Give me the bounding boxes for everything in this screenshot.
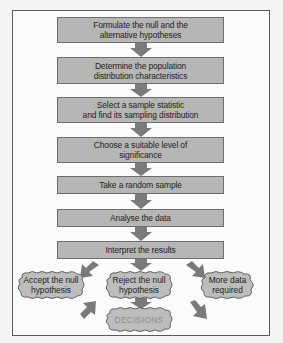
step-sample-statistic: Select a sample statisticand find its sa… xyxy=(57,97,224,123)
down-arrow-icon xyxy=(130,123,152,137)
down-arrow-icon xyxy=(130,84,152,97)
diagonal-arrow-to-decisions-icon xyxy=(188,300,208,319)
step-random-sample: Take a random sample xyxy=(57,176,224,194)
step-formulate-hypotheses: Formulate the null and thealternative hy… xyxy=(57,17,224,43)
step-text: significance xyxy=(94,150,187,160)
step-text: Analyse the data xyxy=(110,213,171,223)
down-arrow-icon xyxy=(130,194,152,209)
step-text: distribution characteristics xyxy=(94,71,188,81)
step-text: Select a sample statistic xyxy=(83,100,199,110)
outcome-accept-null: Accept the nullhypothesis xyxy=(16,270,86,300)
outcome-text: More data xyxy=(209,275,247,285)
outcome-text: hypothesis xyxy=(24,285,79,295)
step-analyse-data: Analyse the data xyxy=(57,209,224,227)
step-text: Formulate the null and the xyxy=(93,20,188,30)
down-arrow-icon xyxy=(130,227,152,241)
diagonal-arrow-to-decisions-icon xyxy=(78,300,98,319)
step-population-distribution: Determine the populationdistribution cha… xyxy=(57,57,224,84)
step-significance-level: Choose a suitable level ofsignificance xyxy=(57,137,224,163)
outcome-text: hypothesis xyxy=(112,285,165,295)
step-interpret-results: Interpret the results xyxy=(57,241,224,259)
step-text: and find its sampling distribution xyxy=(83,110,199,120)
decisions-label: DECISIONS xyxy=(115,315,164,325)
step-text: alternative hypotheses xyxy=(93,30,188,40)
down-arrow-icon xyxy=(130,43,152,57)
outcome-more-data: More datarequired xyxy=(199,270,256,300)
step-text: Take a random sample xyxy=(99,180,182,190)
outcome-text: Reject the null xyxy=(112,275,165,285)
down-arrow-icon xyxy=(130,163,152,176)
outcome-text: Accept the null xyxy=(24,275,79,285)
step-text: Determine the population xyxy=(94,61,188,71)
outcome-reject-null: Reject the nullhypothesis xyxy=(104,270,174,300)
decisions-cloud: DECISIONS xyxy=(104,306,174,333)
step-text: Choose a suitable level of xyxy=(94,140,187,150)
step-text: Interpret the results xyxy=(105,245,175,255)
outcome-text: required xyxy=(209,285,247,295)
